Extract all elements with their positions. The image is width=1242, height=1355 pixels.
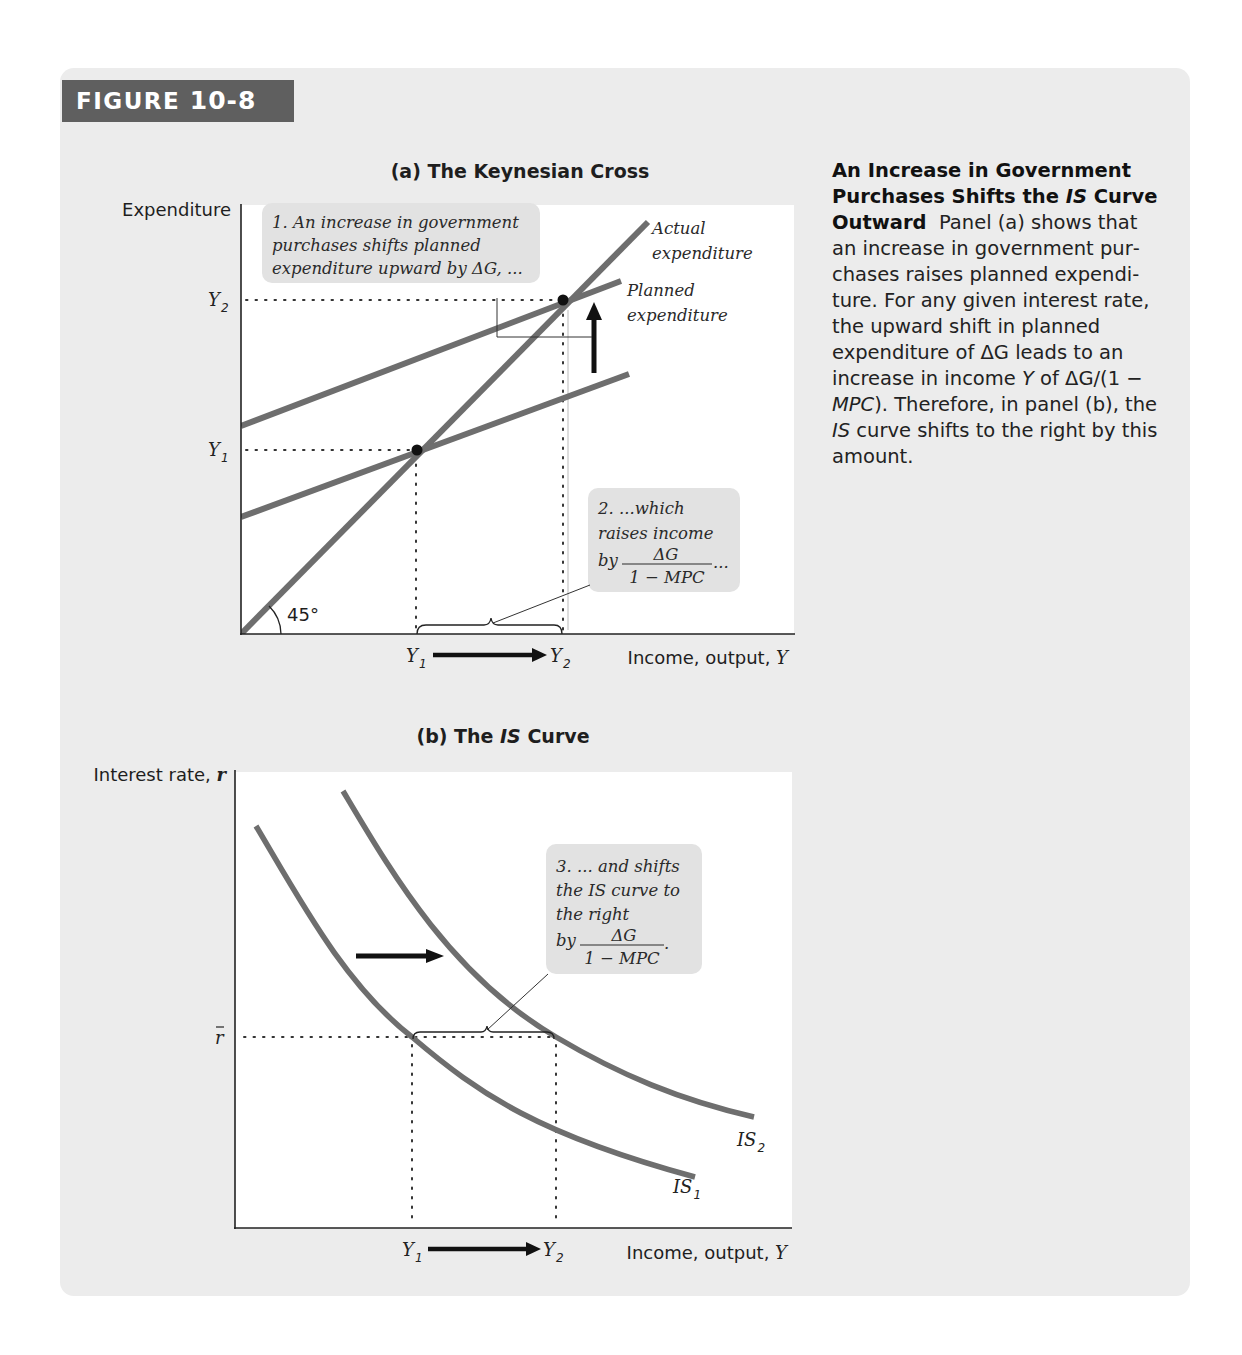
- callout-3-period: .: [664, 934, 669, 953]
- panel-a-xtick-y1: Y1: [406, 645, 427, 671]
- panel-a-ylabel: Expenditure: [122, 199, 231, 220]
- callout-1-line3: expenditure upward by ΔG, ...: [272, 259, 523, 278]
- callout-2-ellipsis: ...: [713, 553, 729, 572]
- callout-3-frac-den: 1 − MPC: [584, 949, 660, 968]
- equilibrium-point-y1: [412, 445, 423, 456]
- callout-3-frac-num: ΔG: [610, 926, 636, 945]
- panel-b-title: (b) The IS Curve: [416, 725, 589, 747]
- callout-3-line3: the right: [556, 905, 630, 924]
- figure-caption: An Increase in Government Purchases Shif…: [832, 158, 1162, 470]
- actual-expenditure-label-2: expenditure: [652, 244, 753, 263]
- callout-1-line2: purchases shifts planned: [272, 236, 481, 255]
- panel-a-title: (a) The Keynesian Cross: [391, 160, 650, 182]
- callout-2-line2: raises income: [598, 524, 714, 543]
- panel-b-plot-area: [235, 772, 792, 1228]
- panel-a-ytick-y2: Y2: [208, 289, 229, 315]
- planned-expenditure-label-1: Planned: [626, 281, 695, 300]
- panel-a-xtick-y2: Y2: [550, 645, 571, 671]
- panel-a-keynesian-cross: (a) The Keynesian Cross Expenditure: [122, 160, 795, 671]
- panel-b-is-curve: (b) The IS Curve Interest rate, r r 3. .…: [93, 725, 792, 1265]
- callout-1-line1: 1. An increase in government: [272, 213, 519, 232]
- panel-b-x-shift-arrow-icon: [526, 1242, 541, 1256]
- callout-3-line2: the IS curve to: [556, 881, 680, 900]
- panel-b-ylabel: Interest rate, r: [93, 764, 227, 785]
- angle-45-label: 45°: [287, 604, 319, 625]
- panel-a-x-shift-arrow-icon: [532, 648, 547, 662]
- panel-a-xlabel: Income, output, Y: [628, 647, 791, 668]
- caption-body: Panel (a) shows that an increase in gove…: [832, 211, 1157, 468]
- panel-b-xtick-y1: Y1: [402, 1239, 423, 1265]
- callout-2-by: by: [598, 551, 619, 570]
- planned-expenditure-label-2: expenditure: [627, 306, 728, 325]
- actual-expenditure-label-1: Actual: [650, 219, 706, 238]
- callout-2-line1: 2. ...which: [597, 499, 685, 518]
- callout-2-frac-num: ΔG: [652, 545, 678, 564]
- callout-2-frac-den: 1 − MPC: [629, 568, 705, 587]
- equilibrium-point-y2: [558, 295, 569, 306]
- callout-3-by: by: [556, 931, 577, 950]
- callout-3-line1: 3. ... and shifts: [556, 857, 680, 876]
- panel-b-xlabel: Income, output, Y: [627, 1242, 790, 1263]
- panel-b-ytick-rbar: r: [215, 1027, 225, 1048]
- panel-b-xtick-y2: Y2: [543, 1239, 564, 1265]
- panel-a-ytick-y1: Y1: [208, 439, 229, 465]
